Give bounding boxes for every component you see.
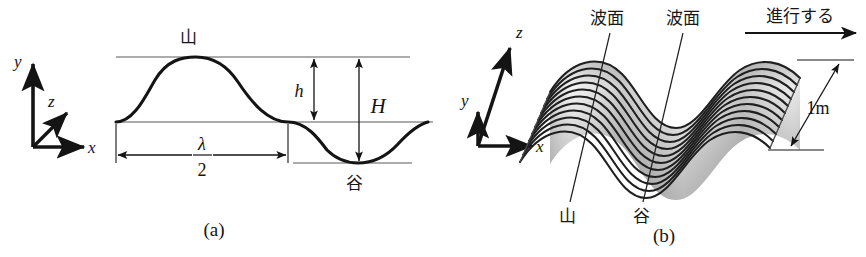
axis-label-z-b: z: [515, 23, 523, 42]
z-axis-arrow: [33, 113, 67, 147]
wavefront-label-left: 波面: [590, 8, 624, 28]
trough-label-a: 谷: [346, 173, 363, 193]
panel-b: z y x: [459, 6, 856, 247]
trough-label-b: 谷: [633, 206, 650, 226]
panel-a-axes: y z x: [12, 52, 96, 157]
dimension-label-h: h: [295, 81, 304, 101]
lambda-numerator: λ: [197, 134, 206, 154]
z-axis-arrow-b: [478, 48, 510, 146]
figure-canvas: y z x 山 谷 h H: [0, 0, 866, 257]
caption-a: (a): [203, 219, 224, 241]
direction-label: 進行する: [766, 6, 834, 26]
height-dimension-H: H: [359, 59, 387, 161]
wave-surface-sheet: [520, 45, 815, 210]
wavefront-label-right: 波面: [666, 8, 700, 28]
axis-label-y: y: [12, 52, 22, 71]
crest-label-b: 山: [559, 206, 576, 226]
half-wavelength-dimension: λ 2: [116, 124, 288, 180]
propagation-direction: 進行する: [745, 6, 856, 33]
axis-label-z: z: [47, 92, 55, 111]
amplitude-dimension-h: h: [295, 59, 315, 120]
caption-b: (b): [653, 225, 675, 247]
panel-a: y z x 山 谷 h H: [12, 27, 433, 241]
physics-wave-figure: y z x 山 谷 h H: [0, 0, 866, 257]
crest-label-a: 山: [180, 27, 197, 47]
lambda-denominator: 2: [198, 160, 207, 180]
depth-label: 1m: [806, 98, 829, 118]
axis-label-x: x: [87, 138, 96, 157]
dimension-label-H: H: [369, 94, 387, 118]
axis-label-y-b: y: [459, 91, 469, 110]
